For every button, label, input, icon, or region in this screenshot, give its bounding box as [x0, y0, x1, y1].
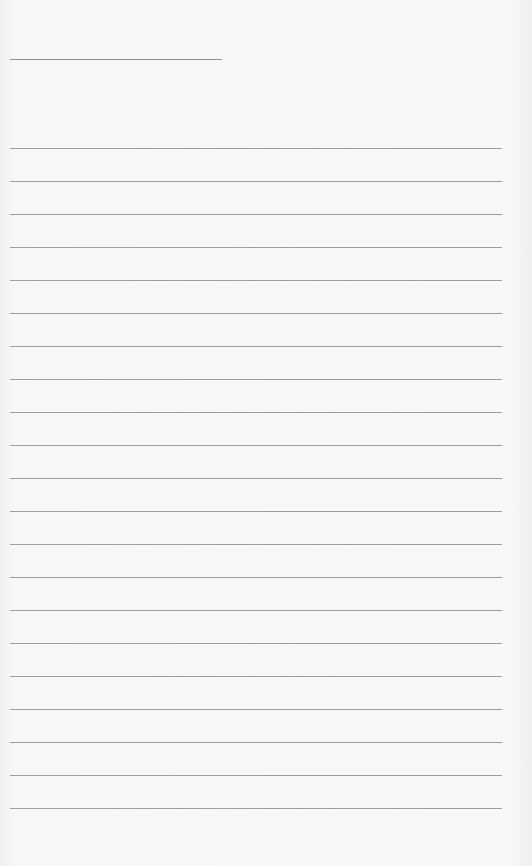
ruled-line	[10, 610, 502, 611]
ruled-line	[10, 148, 502, 149]
ruled-line	[10, 808, 502, 809]
lined-paper-page	[0, 0, 532, 866]
ruled-line	[10, 643, 502, 644]
ruled-line	[10, 742, 502, 743]
title-line	[10, 59, 222, 60]
ruled-line	[10, 544, 502, 545]
ruled-line	[10, 346, 502, 347]
ruled-line	[10, 379, 502, 380]
ruled-line	[10, 445, 502, 446]
ruled-line	[10, 676, 502, 677]
ruled-line	[10, 247, 502, 248]
ruled-line	[10, 214, 502, 215]
ruled-line	[10, 511, 502, 512]
ruled-line	[10, 412, 502, 413]
ruled-line	[10, 313, 502, 314]
ruled-line	[10, 775, 502, 776]
ruled-line	[10, 577, 502, 578]
ruled-line	[10, 478, 502, 479]
ruled-line	[10, 709, 502, 710]
ruled-line	[10, 181, 502, 182]
ruled-line	[10, 280, 502, 281]
